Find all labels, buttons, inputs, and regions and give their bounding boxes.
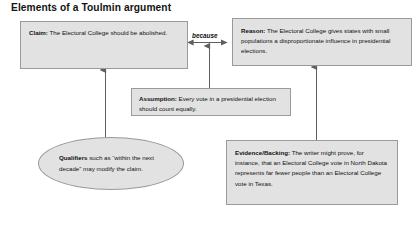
node-reason-lead: Reason:: [241, 27, 265, 34]
node-claim-lead: Claim:: [29, 29, 48, 36]
because-label: because: [192, 32, 218, 39]
page-title: Elements of a Toulmin argument: [11, 2, 171, 13]
node-qualifiers[interactable]: Qualifiers such as “within the next deca…: [38, 137, 184, 190]
node-evidence-lead: Evidence/Backing:: [235, 149, 290, 156]
node-qualifiers-lead: Qualifiers: [59, 154, 88, 161]
node-assumption-lead: Assumption:: [139, 95, 177, 102]
node-reason[interactable]: Reason: The Electoral College gives stat…: [232, 18, 412, 66]
node-evidence-backing[interactable]: Evidence/Backing: The writer might prove…: [226, 140, 398, 205]
node-claim-body: The Electoral College should be abolishe…: [48, 29, 167, 36]
node-assumption[interactable]: Assumption: Every vote in a presidential…: [131, 88, 291, 116]
node-claim[interactable]: Claim: The Electoral College should be a…: [20, 21, 188, 69]
diagram-canvas: Elements of a Toulmin argument: [0, 0, 420, 229]
